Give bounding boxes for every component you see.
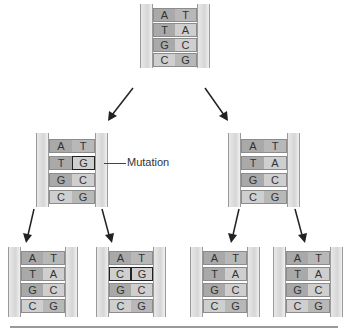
- backbone-left: [8, 247, 21, 317]
- backbone-left: [190, 247, 203, 317]
- base-pair: CG: [241, 190, 287, 204]
- base-pair: TA: [241, 156, 287, 170]
- backbone-left: [228, 133, 241, 207]
- base: C: [225, 283, 247, 297]
- backbone-left: [96, 247, 109, 317]
- dna-gen2-a: AT TA GC CG: [8, 247, 78, 317]
- base: A: [43, 267, 65, 281]
- base: A: [109, 251, 131, 265]
- dna-gen1-left: AT TG GC CG: [36, 133, 108, 207]
- base-pair: TA: [153, 23, 197, 37]
- mutation-leader-line: [104, 163, 126, 164]
- backbone-right: [287, 133, 300, 207]
- base: C: [153, 53, 175, 67]
- backbone-right: [247, 247, 260, 317]
- base: T: [43, 251, 65, 265]
- base-mutation: C: [109, 267, 131, 281]
- base-pair: CG: [286, 299, 330, 313]
- base: G: [264, 190, 287, 204]
- base: G: [49, 173, 72, 187]
- backbone-right: [65, 247, 78, 317]
- backbone-right: [153, 247, 166, 317]
- arrow-icon: [100, 85, 140, 125]
- dna-parent: AT TA GC CG: [140, 4, 210, 68]
- base: A: [153, 8, 175, 22]
- base: G: [72, 190, 95, 204]
- base: C: [264, 173, 287, 187]
- base: C: [241, 190, 264, 204]
- base: C: [49, 190, 72, 204]
- base: T: [21, 267, 43, 281]
- base: A: [264, 156, 287, 170]
- base-pair: GC: [109, 283, 153, 297]
- base: G: [241, 173, 264, 187]
- base-pair: AT: [109, 251, 153, 265]
- dna-gen2-d: AT TA GC CG: [273, 247, 343, 317]
- base: T: [286, 267, 308, 281]
- base-pair: TA: [21, 267, 65, 281]
- base-pair: AT: [49, 139, 95, 153]
- backbone-right: [95, 133, 108, 207]
- base: A: [225, 267, 247, 281]
- arrow-icon: [225, 207, 245, 245]
- backbone-left: [273, 247, 286, 317]
- backbone-right: [197, 4, 210, 68]
- base-pair: TA: [286, 267, 330, 281]
- base-pair: AT: [153, 8, 197, 22]
- base: T: [131, 251, 153, 265]
- base: T: [72, 139, 95, 153]
- base-pair: GC: [241, 173, 287, 187]
- base: A: [49, 139, 72, 153]
- base: C: [175, 38, 197, 52]
- mutation-label: Mutation: [127, 156, 169, 168]
- divider-line: [10, 326, 338, 328]
- base: G: [131, 299, 153, 313]
- base-pair: GC: [49, 173, 95, 187]
- base: G: [109, 283, 131, 297]
- base: G: [153, 38, 175, 52]
- dna-gen2-b: AT CG GC CG: [96, 247, 166, 317]
- base-pair: GC: [286, 283, 330, 297]
- base-pair: AT: [286, 251, 330, 265]
- base: A: [203, 251, 225, 265]
- base-pair: TA: [203, 267, 247, 281]
- base: T: [241, 156, 264, 170]
- base-pair: CG: [109, 299, 153, 313]
- base: G: [43, 299, 65, 313]
- base: A: [241, 139, 264, 153]
- backbone-left: [140, 4, 153, 68]
- base: G: [225, 299, 247, 313]
- base: A: [286, 251, 308, 265]
- base: A: [175, 23, 197, 37]
- base: C: [43, 283, 65, 297]
- base: T: [308, 251, 330, 265]
- base-pair: AT: [203, 251, 247, 265]
- base: G: [21, 283, 43, 297]
- base: G: [286, 283, 308, 297]
- base: T: [203, 267, 225, 281]
- base: T: [175, 8, 197, 22]
- base: C: [131, 283, 153, 297]
- base-mutation: G: [72, 156, 95, 170]
- base: G: [203, 283, 225, 297]
- base: T: [225, 251, 247, 265]
- base-pair: CG: [21, 299, 65, 313]
- base: A: [21, 251, 43, 265]
- base: C: [72, 173, 95, 187]
- base: T: [153, 23, 175, 37]
- base-pair: CG: [203, 299, 247, 313]
- base-pair: GC: [203, 283, 247, 297]
- base: C: [308, 283, 330, 297]
- backbone-left: [36, 133, 49, 207]
- base-pair-mutated: CG: [109, 267, 153, 281]
- base: C: [286, 299, 308, 313]
- arrow-icon: [20, 207, 40, 245]
- base-pair: CG: [153, 53, 197, 67]
- dna-gen1-right: AT TA GC CG: [228, 133, 300, 207]
- base-pair: AT: [21, 251, 65, 265]
- arrow-icon: [200, 85, 240, 125]
- base: C: [203, 299, 225, 313]
- base: C: [109, 299, 131, 313]
- base: A: [308, 267, 330, 281]
- dna-gen2-c: AT TA GC CG: [190, 247, 260, 317]
